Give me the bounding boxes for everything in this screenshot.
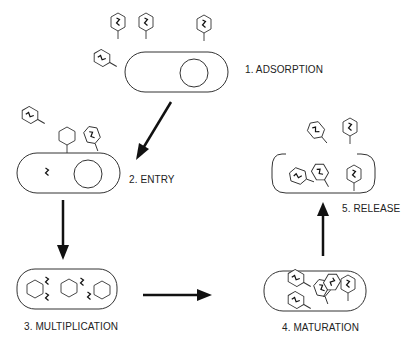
arrow-adsorption-to-entry bbox=[136, 102, 171, 160]
arrow-multiplication-to-maturation bbox=[143, 289, 212, 301]
stage-4-maturation bbox=[264, 267, 366, 314]
empty-phage-icon bbox=[59, 127, 75, 153]
stage-label-maturation: 4. MATURATION bbox=[282, 322, 359, 333]
viral-dna-icon bbox=[88, 292, 91, 300]
bacterial-cell bbox=[17, 153, 120, 193]
stage-label-entry: 2. ENTRY bbox=[129, 174, 175, 185]
viral-dna-icon bbox=[46, 277, 49, 285]
stage-label-release: 5. RELEASE bbox=[342, 203, 400, 214]
stage-label-multiplication: 3. MULTIPLICATION bbox=[24, 321, 118, 332]
viral-dna-icon bbox=[46, 168, 49, 176]
phage-icon bbox=[19, 104, 49, 129]
stage-3-multiplication bbox=[17, 269, 117, 309]
viral-dna-icon bbox=[81, 278, 84, 286]
arrow-maturation-to-release bbox=[317, 202, 329, 256]
bacterial-cell bbox=[125, 52, 228, 92]
lytic-cycle-diagram bbox=[0, 0, 416, 345]
cell-nucleoid bbox=[74, 160, 102, 188]
cell-nucleoid bbox=[180, 59, 208, 87]
stage-label-adsorption: 1. ADSORPTION bbox=[245, 64, 323, 75]
phage-icon bbox=[91, 47, 121, 72]
phage-icon bbox=[111, 13, 125, 39]
bacterial-cell bbox=[17, 269, 117, 309]
stage-5-release bbox=[272, 118, 375, 193]
phage-icon bbox=[139, 13, 153, 39]
phage-icon bbox=[82, 124, 104, 153]
arrow-entry-to-multiplication bbox=[57, 200, 69, 260]
phage-icon bbox=[197, 15, 211, 41]
viral-dna-icon bbox=[46, 293, 49, 301]
stage-1-adsorption bbox=[91, 13, 228, 92]
stage-2-entry bbox=[17, 104, 120, 193]
